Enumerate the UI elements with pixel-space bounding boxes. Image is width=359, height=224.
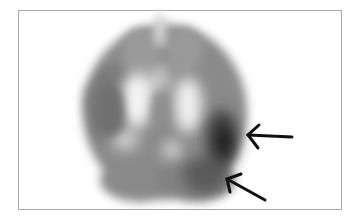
arrow-icon	[248, 125, 292, 148]
brain-scan	[82, 12, 247, 202]
brain-scan-image	[0, 0, 359, 224]
